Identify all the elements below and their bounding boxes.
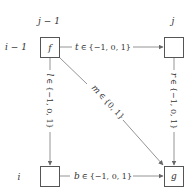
edge-b-label: b∈{−1, 0, 1} [74,171,132,181]
node-g-label: g [171,171,177,181]
dependency-diagram: j − 1 j i − 1 i t∈{−1, 0, 1} l∈{−1, 0, 1… [0,0,193,196]
node-f: f [41,38,60,58]
edge-r-label: r∈{−1, 0, 1} [169,73,179,130]
edge-m-segment-bottom [123,120,163,165]
edge-t-label: t∈{−1, 0, 1} [75,42,131,52]
edge-l-label: l∈{−1, 0, 1} [45,73,55,128]
node-top-right [165,38,184,58]
column-label-j-minus-1: j − 1 [36,16,60,26]
edge-m-segment-top [59,57,87,84]
row-label-i: i [18,172,21,182]
node-bottom-left [41,167,60,187]
row-label-i-minus-1: i − 1 [5,42,27,52]
edge-m-label: m∈{0, 1} [90,82,127,121]
column-label-j: j [170,16,175,26]
node-g: g [165,167,184,187]
